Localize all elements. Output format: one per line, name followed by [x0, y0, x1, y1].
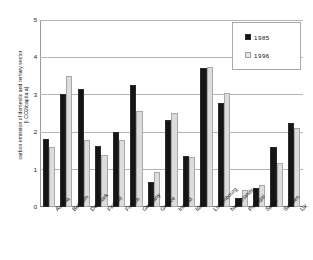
legend-swatch-icon-1985	[245, 34, 251, 40]
bar-chart: carbon emission of domestic and tertiary…	[0, 0, 313, 260]
bar-group	[40, 20, 58, 207]
y-axis-title-line-1: carbon emission of domestic and tertiary…	[17, 50, 23, 159]
legend-item-1996: 1996	[245, 52, 300, 59]
legend: 1985 1996	[232, 22, 301, 70]
x-tick-label-denmark: Denmark	[89, 208, 94, 213]
bar-group	[163, 20, 181, 207]
x-tick-label-luxembourg: Luxembourg	[212, 208, 217, 213]
x-tick-label-greece: Greece	[159, 208, 164, 213]
y-tick-label-4: 4	[34, 54, 37, 60]
bar-group	[198, 20, 216, 207]
x-tick-label-netherlands: Netherlands	[229, 208, 234, 213]
y-tick-label-1: 1	[34, 167, 37, 173]
legend-swatch-icon-1996	[245, 52, 251, 58]
bar-group	[58, 20, 76, 207]
x-tick-label-portugal: Portugal	[247, 208, 252, 213]
y-tick-label-3: 3	[34, 92, 37, 98]
y-tick-label-2: 2	[34, 129, 37, 135]
y-tick-label-5: 5	[34, 17, 37, 23]
bar-group	[180, 20, 198, 207]
bar-1996	[171, 113, 177, 207]
bar-group	[110, 20, 128, 207]
bar-1996	[277, 163, 283, 207]
legend-label-1985: 1985	[254, 34, 270, 41]
x-tick-label-france: France	[124, 208, 129, 213]
x-tick-label-germany: Germany	[141, 208, 146, 213]
bar-group	[145, 20, 163, 207]
x-tick-label-italy: Italy	[194, 208, 199, 213]
x-tick-label-ireland: Ireland	[177, 208, 182, 213]
legend-item-1985: 1985	[245, 34, 300, 41]
bar-group	[215, 20, 233, 207]
bar-group	[93, 20, 111, 207]
bar-1996	[207, 67, 213, 207]
x-tick-label-austria: Austria	[54, 208, 59, 213]
bar-group	[75, 20, 93, 207]
y-tick-label-0: 0	[34, 204, 37, 210]
y-axis-title-line-2: [t CO2/capita a]	[23, 87, 29, 123]
x-tick-label-spain: Spain	[264, 208, 269, 213]
bar-1996	[136, 111, 142, 207]
x-tick-label-belgium: Belgium	[71, 208, 76, 213]
bar-1996	[49, 147, 55, 207]
x-tick-label-sweden: Sweden	[282, 208, 287, 213]
x-tick-label-uk: UK	[299, 208, 304, 213]
bar-group	[128, 20, 146, 207]
x-axis-labels: AustriaBelgiumDenmarkFinlandFranceGerman…	[40, 208, 303, 258]
bar-1996	[66, 76, 72, 207]
y-axis-title: carbon emission of domestic and tertiary…	[16, 14, 30, 196]
legend-label-1996: 1996	[254, 52, 270, 59]
x-tick-label-finland: Finland	[106, 208, 111, 213]
